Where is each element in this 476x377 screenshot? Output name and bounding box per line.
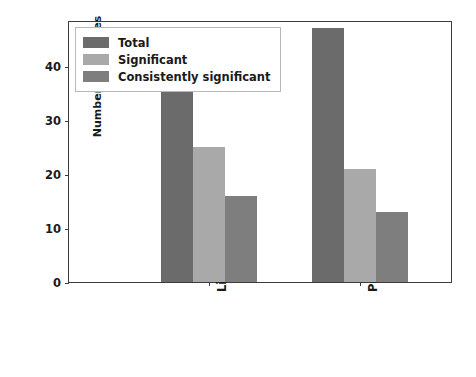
y-tick-label: 10 — [45, 222, 61, 236]
y-tick-mark — [65, 175, 69, 176]
legend-label: Significant — [118, 53, 187, 67]
x-tick-mark — [360, 282, 361, 286]
y-tick-label: 20 — [45, 168, 61, 182]
legend-swatch-icon — [83, 37, 109, 48]
legend-swatch-icon — [83, 54, 109, 65]
bar — [312, 28, 344, 282]
bar — [161, 88, 193, 282]
chart-legend: TotalSignificantConsistently significant — [75, 27, 281, 92]
y-tick-label: 40 — [45, 60, 61, 74]
y-tick-mark — [65, 229, 69, 230]
legend-item: Significant — [83, 51, 271, 68]
legend-swatch-icon — [83, 71, 109, 82]
x-tick-mark — [209, 282, 210, 286]
y-tick-mark — [65, 121, 69, 122]
bar — [376, 212, 408, 282]
legend-label: Consistently significant — [118, 70, 271, 84]
legend-label: Total — [118, 36, 149, 50]
bar — [193, 147, 225, 282]
legend-item: Consistently significant — [83, 68, 271, 85]
plot-area: Number of features 010203040 LiteratureP… — [68, 21, 452, 283]
bar — [344, 169, 376, 282]
y-tick-label: 0 — [53, 276, 61, 290]
y-tick-mark — [65, 283, 69, 284]
legend-item: Total — [83, 34, 271, 51]
y-tick-label: 30 — [45, 114, 61, 128]
bar-chart-figure: Number of features 010203040 LiteratureP… — [0, 0, 476, 377]
bar — [225, 196, 257, 282]
y-tick-mark — [65, 67, 69, 68]
